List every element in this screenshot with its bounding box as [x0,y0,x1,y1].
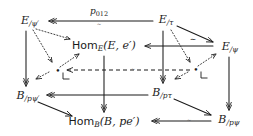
node-E-over-psi-base: E [222,40,230,53]
node-E-over-tau: E/τ [159,14,174,27]
node-B-over-p-psi-prime: B/pψ′ [16,90,39,103]
node-B-over-p-tau-sub: /pτ [160,91,171,100]
node-dot-right: • [193,66,198,75]
node-Hom-B: HomB(B, pe′) [69,116,140,129]
node-B-over-p-psi-sub: /pψ [226,118,239,127]
edge-dot-left-to-B-p-psi-prime-dotted [36,72,49,79]
node-E-over-tau-base: E [159,13,167,26]
node-Hom-E-word: Hom [72,39,98,52]
node-E-over-psi-prime-base: E [21,14,29,27]
node-E-over-psi-prime: E/ψ′ [21,15,39,28]
pullback-corner-left [63,73,69,79]
edge-dot-right-to-E-psi-dotted [198,54,216,66]
node-B-over-p-tau: B/pτ [152,87,172,100]
edge-B-p-tau-to-B-p-psi [174,99,211,115]
node-B-over-p-psi-base: B [218,113,226,126]
edge-label-p012-tilde: ∼ [96,21,101,27]
edge-label-p012: p012 [90,7,108,17]
commutative-diagram: E/ψ′ E/τ HomE(E, e′) E/ψ B/pψ′ B/pτ HomB… [0,0,253,136]
node-Hom-B-args: (B, pe′) [100,115,140,128]
edge-dot-left-to-Hom-E-dotted [60,54,79,67]
node-E-over-tau-sub: /τ [167,18,174,27]
node-B-over-p-tau-base: B [152,86,160,99]
edge-label-tilde-top-right: ∼ [190,36,197,44]
node-B-over-p-psi-prime-base: B [16,89,24,102]
edge-E-psi-prime-to-dot-left-dotted [33,30,52,62]
node-B-over-p-psi: B/pψ [218,114,239,127]
edge-label-p012-sub: 012 [96,10,108,18]
node-Hom-E: HomE(E, e′) [72,40,136,53]
node-Hom-E-args: (E, e′) [103,39,136,52]
edge-label-tilde-bottom: ∼ [186,117,191,123]
edge-E-psi-prime-to-Hom-E-dotted [36,29,70,39]
node-B-over-p-psi-prime-sub: /pψ′ [25,94,40,103]
edge-label-tilde-middle: ∼ [130,66,135,72]
node-E-over-psi-prime-sub: /ψ′ [29,19,39,28]
pullback-corner-right [201,72,207,78]
edge-dot-right-to-B-p-tau-dotted [175,72,188,79]
node-E-over-psi-sub: /ψ [230,45,238,54]
node-E-over-psi: E/ψ [222,41,238,54]
node-Hom-B-word: Hom [69,115,95,128]
node-dot-left: • [55,67,60,76]
edge-B-p-psi-prime-to-Hom-B [38,102,72,116]
